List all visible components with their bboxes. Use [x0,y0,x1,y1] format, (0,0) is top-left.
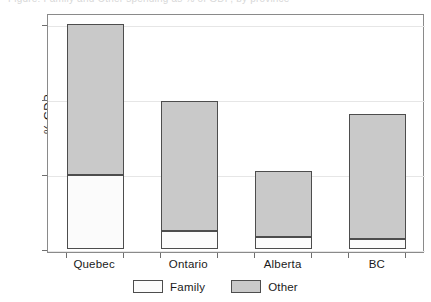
x-tick-label-bc: BC [332,258,422,270]
legend-item-family[interactable]: Family [133,280,205,293]
bar-segment-family-alberta[interactable] [255,237,312,249]
legend-label-family: Family [170,281,205,293]
bar-segment-other-ontario[interactable] [161,101,218,231]
bar-bc[interactable] [349,114,406,249]
legend-item-other[interactable]: Other [231,280,298,293]
legend-swatch-family-icon [133,280,163,293]
bar-segment-other-alberta[interactable] [255,171,312,237]
legend-label-other: Other [268,281,298,293]
stacked-bar-chart: Figure: Family and Other spending as % o… [0,0,431,302]
bar-segment-other-bc[interactable] [349,114,406,239]
chart-legend: Family Other [0,280,431,293]
bar-alberta[interactable] [255,171,312,249]
bar-ontario[interactable] [161,101,218,249]
figure-caption-text: Figure: Family and Other spending as % o… [8,0,290,4]
bar-segment-family-bc[interactable] [349,239,406,249]
gridline-0 [48,251,425,252]
x-tick-label-quebec: Quebec [49,258,139,270]
bar-segment-family-quebec[interactable] [67,175,124,249]
bar-segment-family-ontario[interactable] [161,231,218,249]
bar-quebec[interactable] [67,24,124,249]
x-tick-label-alberta: Alberta [238,258,328,270]
legend-swatch-other-icon [231,280,261,293]
bar-segment-other-quebec[interactable] [67,24,124,175]
figure-caption: Figure: Family and Other spending as % o… [0,0,431,7]
x-tick-label-ontario: Ontario [143,258,233,270]
plot-area [47,14,424,253]
